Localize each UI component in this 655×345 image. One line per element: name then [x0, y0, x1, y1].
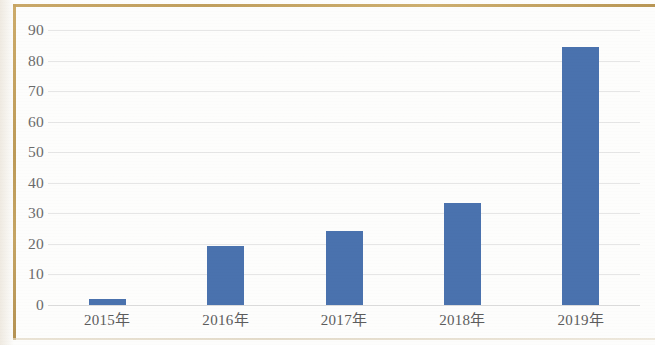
x-tick-label-2018年: 2018年	[403, 313, 521, 328]
gridline-70	[48, 91, 640, 92]
y-tick-label-60: 60	[4, 114, 44, 130]
x-tick-label-2015年: 2015年	[48, 313, 166, 328]
gridline-80	[48, 61, 640, 62]
bar-2018年	[444, 203, 481, 305]
y-tick-label-40: 40	[4, 175, 44, 191]
y-tick-label-20: 20	[4, 236, 44, 252]
y-tick-label-10: 10	[4, 267, 44, 283]
x-tick-label-2016年: 2016年	[167, 313, 285, 328]
bar-2015年	[89, 299, 126, 305]
gridline-90	[48, 30, 640, 31]
page-frame-top-rule	[13, 4, 655, 7]
y-tick-label-70: 70	[4, 83, 44, 99]
page-frame-bottom-rule	[13, 338, 655, 340]
x-tick-label-2019年: 2019年	[522, 313, 640, 328]
y-tick-label-50: 50	[4, 144, 44, 160]
y-axis-tick-labels: 9080706050403020100	[0, 30, 44, 305]
bar-chart-figure: 9080706050403020100 2015年2016年2017年2018年…	[0, 0, 655, 345]
gridline-40	[48, 183, 640, 184]
y-tick-label-80: 80	[4, 53, 44, 69]
gridline-60	[48, 122, 640, 123]
bar-2016年	[207, 246, 244, 305]
y-tick-label-0: 0	[4, 297, 44, 313]
y-tick-label-30: 30	[4, 206, 44, 222]
bar-2019年	[562, 47, 599, 305]
plot-area	[48, 30, 640, 305]
gridline-50	[48, 152, 640, 153]
x-tick-label-2017年: 2017年	[285, 313, 403, 328]
gridline-30	[48, 213, 640, 214]
gridline-0	[48, 305, 640, 306]
y-tick-label-90: 90	[4, 22, 44, 38]
bar-2017年	[326, 231, 363, 305]
